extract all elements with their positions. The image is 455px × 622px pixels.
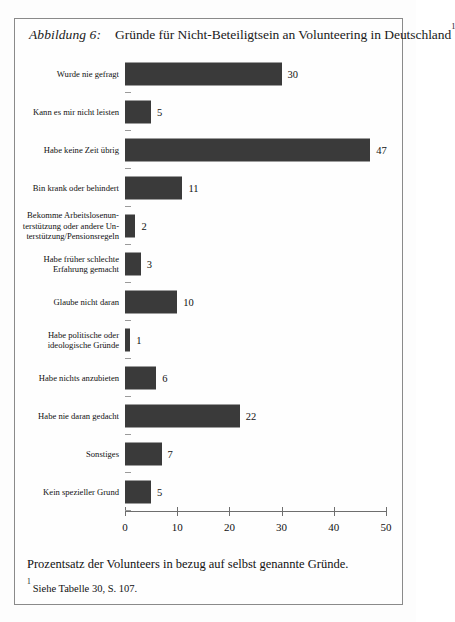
bar-track: 2: [125, 207, 404, 245]
category-axis-tick: [125, 168, 131, 169]
category-axis-tick: [125, 472, 131, 473]
bar-track: 6: [125, 359, 404, 397]
figure-footnote: 1Siehe Tabelle 30, S. 107.: [27, 578, 392, 595]
bar-category-label-line: Wurde nie gefragt: [15, 69, 119, 79]
category-axis-tick: [125, 130, 131, 131]
bar-category-label-line: Kann es mir nicht leisten: [15, 107, 119, 117]
x-axis-tick-label: 50: [381, 521, 392, 533]
x-axis-tick: [386, 507, 387, 516]
bar: [125, 215, 135, 238]
bar-row: Bin krank oder behindert11: [15, 169, 404, 207]
bar-rows: Wurde nie gefragt30Kann es mir nicht lei…: [15, 55, 404, 511]
x-axis-tick: [282, 507, 283, 516]
bar-category-label-line: Glaube nicht daran: [15, 297, 119, 307]
bar-value-label: 10: [183, 297, 194, 308]
footnote-text: Siehe Tabelle 30, S. 107.: [33, 582, 137, 593]
bar-category-label-line: terstützung oder andere Un-: [15, 221, 119, 231]
bar-category-label-line: Sonstiges: [15, 449, 119, 459]
bar-category-label-line: Habe früher schlechte: [15, 254, 119, 264]
x-axis-tick-label: 20: [224, 521, 235, 533]
bar-value-label: 2: [141, 221, 146, 232]
bar-track: 1: [125, 321, 404, 359]
bar-category-label: Kann es mir nicht leisten: [15, 107, 125, 117]
bar-category-label: Habe nie daran gedacht: [15, 411, 125, 421]
bar-category-label: Habe keine Zeit übrig: [15, 145, 125, 155]
bar-track: 7: [125, 435, 404, 473]
bar: [125, 329, 130, 352]
bar-value-label: 11: [188, 183, 198, 194]
figure-frame: Abbildung 6: Gründe für Nicht-Beteiligts…: [14, 18, 403, 605]
category-axis-tick: [125, 320, 131, 321]
x-axis-tick: [334, 507, 335, 516]
bar-category-label-line: Bin krank oder behindert: [15, 183, 119, 193]
x-axis-tick-label: 30: [276, 521, 287, 533]
figure-title: Abbildung 6: Gründe für Nicht-Beteiligts…: [15, 25, 404, 49]
bar: [125, 443, 162, 466]
category-axis-tick: [125, 396, 131, 397]
bar-category-label-line: Habe nichts anzubieten: [15, 373, 119, 383]
bar-value-label: 3: [147, 259, 152, 270]
bar-category-label: Kein spezieller Grund: [15, 487, 125, 497]
bar-row: Wurde nie gefragt30: [15, 55, 404, 93]
category-axis-tick: [125, 92, 131, 93]
bar-row: Bekomme Arbeitslosenun-terstützung oder …: [15, 207, 404, 245]
bar-track: 5: [125, 473, 404, 511]
figure-title-text: Gründe für Nicht-Beteiligtsein an Volunt…: [115, 25, 455, 43]
bar-category-label: Habe politische oderideologische Gründe: [15, 330, 125, 351]
bar-category-label: Bin krank oder behindert: [15, 183, 125, 193]
category-axis-tick: [125, 510, 131, 511]
x-axis-line: [125, 511, 386, 512]
bar: [125, 177, 182, 200]
x-axis-tick-label: 0: [122, 521, 128, 533]
bar-track: 47: [125, 131, 404, 169]
bar-value-label: 7: [168, 449, 173, 460]
category-axis-tick: [125, 434, 131, 435]
bar-category-label-line: Bekomme Arbeitslosenun-: [15, 210, 119, 220]
bar: [125, 405, 240, 428]
bar-row: Glaube nicht daran10: [15, 283, 404, 321]
figure-footer: Prozentsatz der Volunteers in bezug auf …: [15, 556, 404, 605]
x-axis-tick: [177, 507, 178, 516]
bar: [125, 481, 151, 504]
bar-row: Sonstiges7: [15, 435, 404, 473]
footnote-superscript: 1: [27, 577, 31, 586]
bar-category-label-line: ideologische Gründe: [15, 340, 119, 350]
bar-track: 11: [125, 169, 404, 207]
bar-category-label-line: terstützung/Pensionsregeln: [15, 231, 119, 241]
figure-caption: Prozentsatz der Volunteers in bezug auf …: [27, 556, 392, 572]
bar-track: 10: [125, 283, 404, 321]
x-axis: 01020304050: [125, 511, 396, 541]
bar-category-label: Habe nichts anzubieten: [15, 373, 125, 383]
bar-track: 22: [125, 397, 404, 435]
bar-category-label: Sonstiges: [15, 449, 125, 459]
bar-category-label-line: Habe keine Zeit übrig: [15, 145, 119, 155]
bar-value-label: 6: [162, 373, 167, 384]
bar-track: 30: [125, 55, 404, 93]
figure-number-label: Abbildung 6:: [29, 27, 101, 43]
bar-row: Kann es mir nicht leisten5: [15, 93, 404, 131]
bar-value-label: 5: [157, 107, 162, 118]
bar-row: Habe politische oderideologische Gründe1: [15, 321, 404, 359]
bar-row: Habe keine Zeit übrig47: [15, 131, 404, 169]
bar-row: Habe nichts anzubieten6: [15, 359, 404, 397]
bar-category-label-line: Habe nie daran gedacht: [15, 411, 119, 421]
bar: [125, 291, 177, 314]
bar-category-label-line: Erfahrung gemacht: [15, 264, 119, 274]
bar-row: Habe früher schlechteErfahrung gemacht3: [15, 245, 404, 283]
bar-value-label: 1: [136, 335, 141, 346]
bar-category-label: Habe früher schlechteErfahrung gemacht: [15, 254, 125, 275]
category-axis-tick: [125, 282, 131, 283]
bar: [125, 139, 370, 162]
x-axis-tick: [229, 507, 230, 516]
bar-category-label: Glaube nicht daran: [15, 297, 125, 307]
x-axis-tick-label: 10: [172, 521, 183, 533]
bar-row: Kein spezieller Grund5: [15, 473, 404, 511]
bar: [125, 367, 156, 390]
figure-title-main: Gründe für Nicht-Beteiligtsein an Volunt…: [115, 27, 451, 42]
chart-plot-area: Wurde nie gefragt30Kann es mir nicht lei…: [15, 55, 404, 541]
bar-value-label: 30: [288, 69, 299, 80]
bar-row: Habe nie daran gedacht22: [15, 397, 404, 435]
x-axis-tick-label: 40: [328, 521, 339, 533]
bar: [125, 253, 141, 276]
